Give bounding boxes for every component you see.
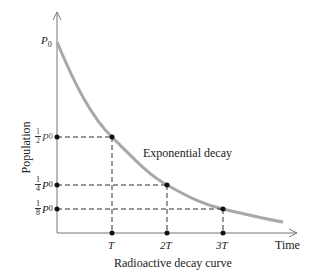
chart-caption: Radioactive decay curve [114, 256, 232, 271]
quarter-p0-label: 14P0 [35, 176, 53, 193]
tick-t: T [108, 239, 114, 251]
tick-2t: 2T [160, 239, 172, 251]
x-axis-label: Time [275, 238, 300, 253]
tick-3t: 3T [216, 239, 228, 251]
curve-annotation: Exponential decay [143, 146, 232, 161]
half-p0-label: 12P0 [35, 128, 53, 145]
p0-label: P0 [41, 34, 52, 49]
y-axis-label: Population [19, 118, 34, 178]
decay-curve [57, 42, 283, 222]
eighth-p0-label: 18P0 [35, 200, 53, 217]
